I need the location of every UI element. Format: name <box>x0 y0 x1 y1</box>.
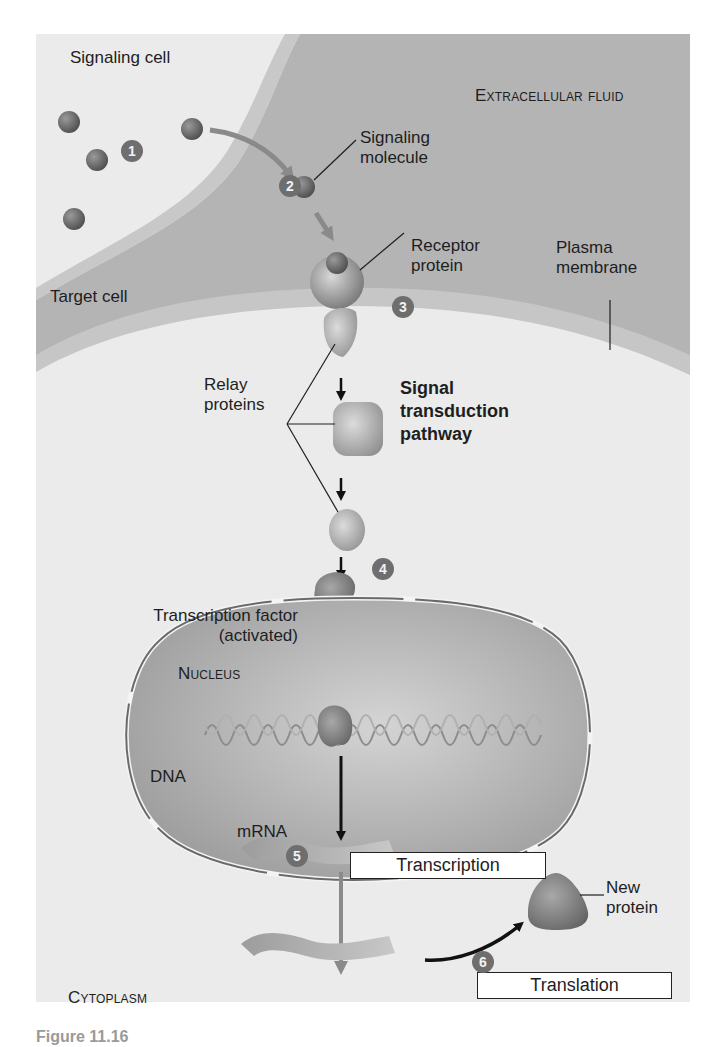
signaling-molecule-label: Signaling molecule <box>360 128 430 168</box>
step-badge-4: 4 <box>372 558 394 580</box>
step-badge-2: 2 <box>279 175 301 197</box>
step-badge-6: 6 <box>472 951 494 973</box>
new-protein-label: New protein <box>606 878 658 918</box>
signal-transduction-pathway-label: Signal transduction pathway <box>400 377 509 446</box>
extracellular-fluid-label: Extracellular fluid <box>475 86 624 106</box>
receptor-protein-label: Receptor protein <box>411 236 480 276</box>
step-badge-3: 3 <box>392 296 414 318</box>
dna-label: DNA <box>150 767 186 787</box>
nucleus-label: Nucleus <box>178 664 240 684</box>
step-badge-5: 5 <box>286 845 308 867</box>
figure-caption: Figure 11.16 <box>36 1028 129 1046</box>
translation-box: Translation <box>477 972 672 999</box>
plasma-membrane-label: Plasma membrane <box>556 238 637 278</box>
transcription-factor-label: Transcription factor (activated) <box>118 606 298 646</box>
step-badge-1: 1 <box>121 140 143 162</box>
signaling-cell-label: Signaling cell <box>70 48 170 68</box>
target-cell-label: Target cell <box>50 287 127 307</box>
transcription-box: Transcription <box>350 852 546 879</box>
mrna-label: mRNA <box>237 822 287 842</box>
relay-proteins-label: Relay proteins <box>204 375 264 415</box>
cytoplasm-label: Cytoplasm <box>68 988 147 1008</box>
